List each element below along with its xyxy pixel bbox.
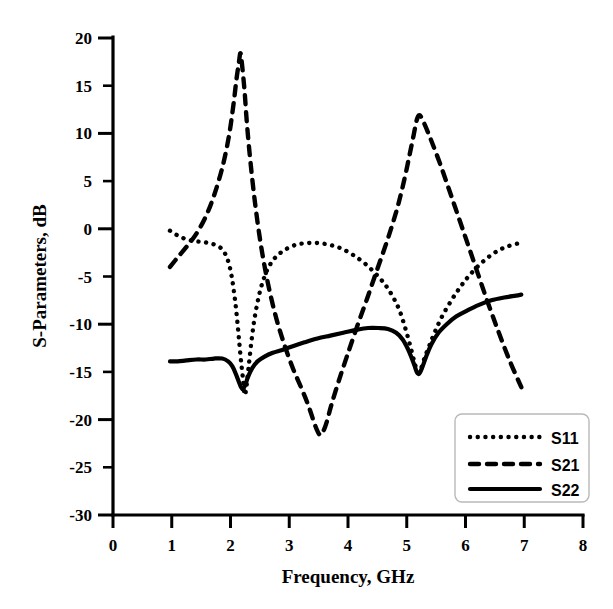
y-tick-label: 5 (84, 172, 93, 191)
x-tick-label: 5 (403, 536, 412, 555)
y-tick-label: -5 (78, 268, 92, 287)
s-parameters-line-chart: -30-25-20-15-10-505101520 012345678 S-Pa… (0, 0, 613, 609)
legend-label-s21: S21 (551, 457, 580, 474)
x-tick-label: 7 (520, 536, 529, 555)
x-axis-title: Frequency, GHz (282, 566, 415, 587)
x-tick-label: 4 (344, 536, 353, 555)
y-tick-label: -15 (69, 363, 92, 382)
y-tick-label: -10 (69, 315, 92, 334)
y-tick-label: 10 (75, 124, 92, 143)
x-tick-label: 3 (285, 536, 294, 555)
data-series-layer (170, 53, 521, 435)
y-tick-label: -30 (69, 506, 92, 525)
y-tick-label: -20 (69, 411, 92, 430)
x-tick-label: 6 (461, 536, 470, 555)
y-tick-label: 0 (84, 220, 93, 239)
y-axis-ticks (98, 38, 113, 515)
chart-legend: S11S21S22 (455, 414, 589, 502)
y-tick-label: 15 (75, 77, 92, 96)
legend-label-s11: S11 (551, 430, 579, 447)
y-axis-title: S-Parameters, dB (29, 204, 50, 348)
y-tick-label: 20 (75, 29, 92, 48)
y-tick-label: -25 (69, 458, 92, 477)
series-s11 (170, 231, 521, 395)
x-axis-tick-labels: 012345678 (109, 536, 588, 555)
legend-label-s22: S22 (551, 482, 580, 499)
series-s21 (170, 53, 521, 435)
y-axis-tick-labels: -30-25-20-15-10-505101520 (69, 29, 92, 525)
x-tick-label: 1 (168, 536, 177, 555)
x-tick-label: 0 (109, 536, 118, 555)
x-axis-ticks (113, 515, 583, 528)
series-s22 (170, 295, 521, 390)
x-tick-label: 2 (226, 536, 235, 555)
x-tick-label: 8 (579, 536, 588, 555)
chart-figure: -30-25-20-15-10-505101520 012345678 S-Pa… (0, 0, 613, 609)
